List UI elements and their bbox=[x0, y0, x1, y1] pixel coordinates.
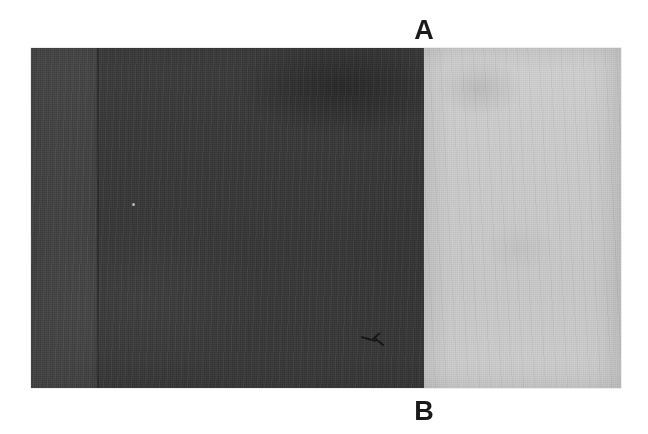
seam-line bbox=[97, 48, 99, 388]
scratch-stroke bbox=[375, 338, 385, 347]
figure-root: A B bbox=[0, 0, 648, 434]
micrograph-plate bbox=[31, 48, 621, 388]
scratch-artifact bbox=[361, 333, 387, 349]
micrograph-region-dark bbox=[31, 48, 424, 388]
micrograph-region-light bbox=[424, 48, 621, 388]
bright-speck-artifact bbox=[132, 203, 135, 206]
halftone-grain-overlay bbox=[424, 48, 621, 388]
fiber-texture-overlay bbox=[424, 48, 621, 388]
panel-label-b: B bbox=[404, 398, 444, 425]
panel-label-a: A bbox=[404, 17, 444, 44]
